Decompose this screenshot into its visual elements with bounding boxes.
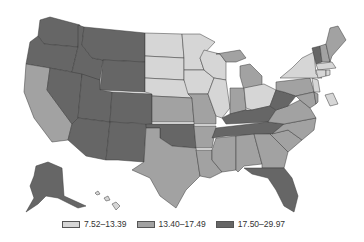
- state-nm: [106, 122, 146, 162]
- state-sd: [145, 56, 184, 80]
- legend-item-high: 17.50–29.97: [216, 219, 285, 229]
- state-in: [230, 88, 246, 114]
- state-hi: [112, 202, 120, 210]
- state-hi-2: [104, 196, 110, 201]
- states-layer: [24, 17, 346, 212]
- legend-swatch-mid: [137, 221, 155, 228]
- state-ks: [152, 96, 194, 122]
- legend-label-mid: 13.40–17.49: [159, 219, 206, 229]
- legend-item-mid: 13.40–17.49: [137, 219, 206, 229]
- state-nd: [145, 33, 184, 58]
- state-wy: [100, 60, 145, 92]
- legend-item-low: 7.52–13.39: [62, 219, 127, 229]
- us-choropleth-map: [0, 0, 364, 242]
- state-ri: [326, 70, 330, 76]
- state-mt: [82, 27, 145, 62]
- state-co: [110, 92, 152, 124]
- map-legend: 7.52–13.39 13.40–17.49 17.50–29.97: [62, 219, 295, 229]
- state-dc: [325, 93, 338, 106]
- state-fl: [244, 168, 298, 212]
- legend-swatch-high: [216, 221, 234, 228]
- state-ct: [316, 70, 326, 78]
- legend-label-low: 7.52–13.39: [84, 219, 127, 229]
- state-hi-3: [95, 191, 100, 195]
- legend-swatch-low: [62, 221, 80, 228]
- state-ak: [26, 162, 86, 212]
- state-me: [326, 26, 346, 62]
- state-az: [68, 118, 110, 160]
- legend-label-high: 17.50–29.97: [238, 219, 285, 229]
- state-wa: [38, 17, 80, 47]
